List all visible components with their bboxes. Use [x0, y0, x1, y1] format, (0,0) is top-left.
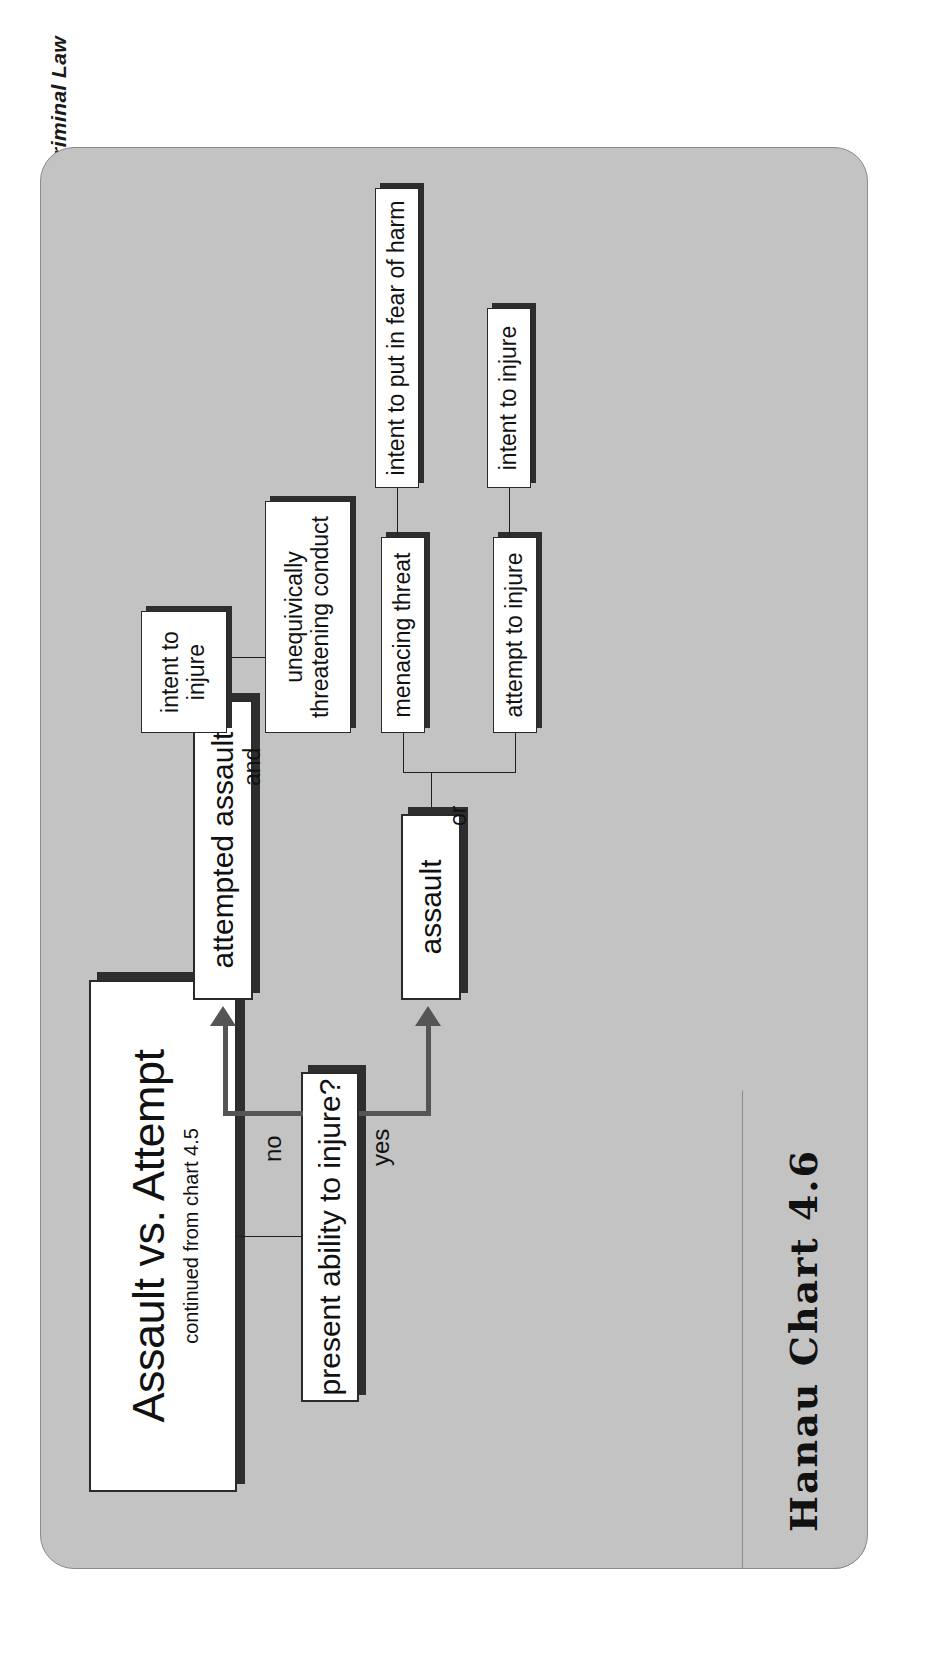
requirement-label: intent to injure — [496, 326, 522, 470]
option-label: attempt to injure — [502, 553, 528, 718]
option-label: menacing threat — [390, 553, 416, 718]
yes-arrow-horizontal — [426, 1024, 431, 1116]
element-node-intent-to-injure-attempted[interactable]: intent to injure — [141, 611, 227, 733]
branch-label-no: no — [259, 1135, 287, 1162]
yes-arrow-vertical — [359, 1111, 431, 1116]
decision-node-present-ability[interactable]: present ability to injure? — [301, 1072, 359, 1402]
outcome-node-assault[interactable]: assault — [401, 814, 461, 1000]
rotated-chart-wrapper: Blond's Criminal Law Assault vs. Attempt… — [0, 0, 932, 1665]
branch-label-yes: yes — [367, 1129, 395, 1166]
connector-label-or: or — [445, 806, 472, 826]
chart-page: Blond's Criminal Law Assault vs. Attempt… — [0, 0, 932, 1665]
element-node-unequivically-threatening-conduct[interactable]: unequivically threatening conduct — [265, 501, 351, 733]
title-card: Assault vs. Attempt continued from chart… — [89, 980, 237, 1492]
attempt-to-requirement-link — [509, 488, 510, 537]
page-subtitle: continued from chart 4.5 — [180, 1128, 202, 1344]
no-arrow-horizontal — [223, 1024, 228, 1116]
title-to-decision-stem — [237, 1236, 301, 1237]
menacing-to-requirement-link — [397, 488, 398, 537]
requirement-node-intent-to-injure[interactable]: intent to injure — [487, 308, 531, 488]
requirement-node-intent-to-put-in-fear-of-harm[interactable]: intent to put in fear of harm — [375, 188, 419, 488]
connector-label-and: and — [239, 748, 266, 786]
no-arrow-vertical — [223, 1111, 303, 1116]
outcome-node-attempted-assault[interactable]: attempted assault — [193, 700, 253, 1000]
assault-stem — [431, 773, 432, 807]
footer-tab: Hanau Chart 4.6 — [742, 1051, 868, 1569]
element-label: unequivically threatening conduct — [282, 502, 334, 732]
assault-branch-bottom — [515, 733, 516, 773]
assault-branch-top — [403, 733, 404, 773]
requirement-label: intent to put in fear of harm — [384, 201, 410, 476]
chart-number-label: Hanau Chart 4.6 — [781, 1149, 826, 1532]
assault-bracket-vertical — [403, 772, 515, 773]
option-node-menacing-threat[interactable]: menacing threat — [381, 537, 425, 733]
page-title: Assault vs. Attempt — [124, 1049, 174, 1422]
element-label: intent to injure — [158, 612, 210, 732]
option-node-attempt-to-injure[interactable]: attempt to injure — [493, 537, 537, 733]
no-arrow-head — [210, 1006, 236, 1026]
yes-arrow-head — [415, 1006, 441, 1026]
chart-panel: Assault vs. Attempt continued from chart… — [40, 147, 868, 1569]
